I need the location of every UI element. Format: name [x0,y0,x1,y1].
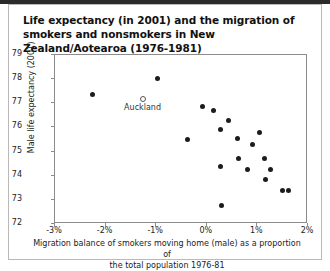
y-axis-label: Male life expectancy (2001) [27,28,36,168]
data-point [155,76,160,81]
data-point-label: Auckland [124,103,161,112]
x-axis-label: Migration balance of smokers moving home… [31,238,303,271]
y-tick-mark [51,199,54,200]
y-tick-label: 77 [0,97,22,106]
data-point [250,142,255,147]
data-point [263,177,268,182]
data-point [262,156,267,161]
y-tick-label: 75 [0,146,22,155]
data-point [185,137,190,142]
y-tick-label: 79 [0,49,22,58]
x-axis-label-line-1: Migration balance of smokers moving home… [31,238,303,260]
x-tick-mark [155,223,156,227]
y-tick-label: 73 [0,194,22,203]
y-tick-mark [51,54,54,55]
data-point [245,167,250,172]
y-tick-mark [51,78,54,79]
x-tick-mark [307,223,308,227]
x-tick-mark [256,223,257,227]
y-tick-mark [51,102,54,103]
plot-frame [54,54,307,223]
data-point [226,118,231,123]
x-tick-label: 2% [287,226,327,235]
y-tick-label: 76 [0,121,22,130]
x-tick-label: 1% [236,226,276,235]
x-tick-mark [54,223,55,227]
x-tick-label: 0% [186,226,226,235]
y-tick-mark [51,151,54,152]
x-tick-label: -3% [34,226,74,235]
y-tick-label: 78 [0,73,22,82]
x-tick-mark [206,223,207,227]
data-point [268,167,273,172]
y-tick-mark [51,126,54,127]
x-axis-label-line-2: the total population 1976-81 [31,260,303,271]
data-point [280,188,285,193]
x-tick-label: -2% [85,226,125,235]
data-point [286,188,291,193]
y-tick-label: 74 [0,170,22,179]
x-tick-label: -1% [135,226,175,235]
y-tick-mark [51,175,54,176]
data-point-auckland [140,96,146,102]
data-point [218,127,223,132]
plot-area-wrapper: Male life expectancy (2001) 727374757677… [9,5,323,261]
x-tick-mark [105,223,106,227]
y-tick-label: 72 [0,218,22,227]
chart-figure: Life expectancy (in 2001) and the migrat… [8,4,322,260]
data-point [90,92,95,97]
